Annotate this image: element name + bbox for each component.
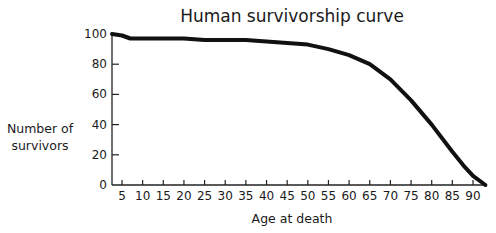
x-tick-label: 60	[341, 189, 356, 203]
x-tick-label: 50	[300, 189, 315, 203]
survivorship-curve-line	[112, 34, 485, 185]
y-ticks: 020406080100	[84, 27, 119, 192]
y-tick-label: 0	[99, 178, 107, 192]
x-tick-label: 55	[321, 189, 336, 203]
x-tick-label: 90	[465, 189, 480, 203]
x-tick-label: 30	[218, 189, 233, 203]
x-tick-label: 40	[259, 189, 274, 203]
y-tick-label: 40	[92, 118, 107, 132]
chart-title: Human survivorship curve	[180, 6, 404, 26]
x-tick-label: 25	[197, 189, 212, 203]
svg-text:Number of: Number of	[7, 121, 74, 136]
x-tick-label: 45	[280, 189, 295, 203]
y-axis-label: Number of survivors	[7, 121, 74, 153]
y-tick-label: 60	[92, 87, 107, 101]
x-ticks: 51015202530354045505560657075808590	[118, 180, 480, 203]
survivorship-chart: Human survivorship curve Number of survi…	[0, 0, 496, 233]
y-tick-label: 20	[92, 148, 107, 162]
x-tick-label: 75	[403, 189, 418, 203]
x-tick-label: 10	[135, 189, 150, 203]
x-tick-label: 70	[383, 189, 398, 203]
x-tick-label: 5	[118, 189, 126, 203]
x-tick-label: 35	[238, 189, 253, 203]
y-tick-label: 80	[92, 57, 107, 71]
x-tick-label: 80	[424, 189, 439, 203]
x-tick-label: 20	[176, 189, 191, 203]
x-tick-label: 85	[445, 189, 460, 203]
x-tick-label: 65	[362, 189, 377, 203]
x-axis-label: Age at death	[252, 211, 333, 226]
svg-text:survivors: survivors	[11, 138, 68, 153]
x-tick-label: 15	[156, 189, 171, 203]
y-tick-label: 100	[84, 27, 107, 41]
